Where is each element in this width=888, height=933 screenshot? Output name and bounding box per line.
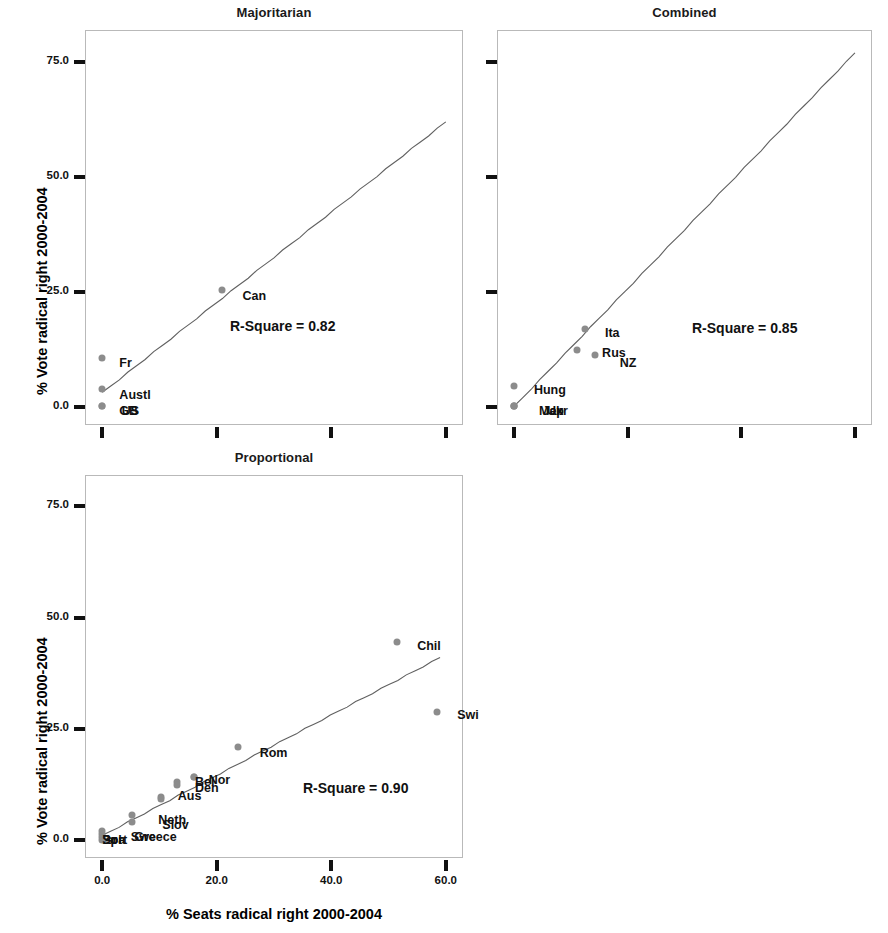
y-tick-proportional-1 — [74, 727, 85, 731]
data-point-combined-hung — [511, 382, 518, 389]
x-tick-proportional-3 — [444, 860, 448, 871]
data-point-label-combined-nz: NZ — [620, 356, 637, 370]
y-tick-label-proportional-2: 50.0 — [19, 610, 69, 622]
data-point-proportional-swi — [434, 708, 441, 715]
data-point-label-proportional-swi: Swi — [457, 708, 479, 722]
scatter-figure-panel-grid: Majoritarian0.025.050.075.0% Vote radica… — [0, 0, 888, 933]
y-tick-combined-0 — [486, 405, 497, 409]
data-point-label-majoritarian-fr: Fr — [119, 356, 132, 370]
x-tick-combined-2 — [739, 427, 743, 438]
r-square-annotation-combined: R-Square = 0.85 — [692, 320, 797, 336]
x-tick-proportional-2 — [329, 860, 333, 871]
data-point-majoritarian-can — [219, 286, 226, 293]
r-square-annotation-majoritarian: R-Square = 0.82 — [230, 318, 335, 334]
data-point-majoritarian-fr — [99, 355, 106, 362]
data-point-combined-ukr — [511, 402, 518, 409]
data-point-proportional-slov — [158, 796, 165, 803]
y-axis-label-majoritarian: % Vote radical right 2000-2004 — [34, 187, 50, 395]
plot-area-proportional — [85, 475, 463, 858]
x-tick-majoritarian-0 — [100, 427, 104, 438]
data-point-proportional-aus — [173, 781, 180, 788]
x-tick-label-proportional-2: 40.0 — [301, 874, 361, 886]
data-point-combined-rus — [573, 346, 580, 353]
data-point-proportional-chil — [394, 639, 401, 646]
x-tick-combined-1 — [626, 427, 630, 438]
y-tick-label-majoritarian-0: 0.0 — [19, 399, 69, 411]
data-point-label-combined-ita: Ita — [605, 326, 620, 340]
data-point-label-proportional-spa: Spa — [102, 833, 125, 847]
x-tick-combined-0 — [512, 427, 516, 438]
y-tick-proportional-2 — [74, 616, 85, 620]
y-tick-combined-1 — [486, 290, 497, 294]
y-tick-proportional-0 — [74, 838, 85, 842]
y-tick-combined-2 — [486, 175, 497, 179]
data-point-label-majoritarian-austl: Austl — [119, 388, 150, 402]
x-tick-majoritarian-1 — [215, 427, 219, 438]
y-tick-majoritarian-3 — [74, 60, 85, 64]
x-axis-label: % Seats radical right 2000-2004 — [85, 906, 463, 922]
data-point-combined-ita — [582, 325, 589, 332]
x-tick-majoritarian-2 — [329, 427, 333, 438]
y-tick-label-majoritarian-3: 75.0 — [19, 54, 69, 66]
data-point-label-combined-hung: Hung — [534, 383, 566, 397]
plot-area-majoritarian — [85, 30, 463, 425]
x-tick-proportional-1 — [215, 860, 219, 871]
y-tick-majoritarian-1 — [74, 290, 85, 294]
data-point-label-combined-ukr: Ukr — [547, 404, 568, 418]
y-axis-label-proportional: % Vote radical right 2000-2004 — [34, 637, 50, 845]
data-point-majoritarian-us — [99, 402, 106, 409]
data-point-label-proportional-chil: Chil — [417, 639, 441, 653]
data-point-label-majoritarian-can: Can — [243, 289, 267, 303]
x-tick-combined-3 — [853, 427, 857, 438]
data-point-label-proportional-rom: Rom — [260, 746, 288, 760]
data-point-label-proportional-greece: Greece — [134, 830, 176, 844]
x-tick-majoritarian-3 — [444, 427, 448, 438]
data-point-label-proportional-aus: Aus — [178, 789, 202, 803]
data-point-proportional-greece — [128, 818, 135, 825]
data-point-proportional-rom — [235, 743, 242, 750]
plot-area-combined — [497, 30, 872, 425]
x-tick-label-proportional-3: 60.0 — [416, 874, 476, 886]
y-tick-majoritarian-2 — [74, 175, 85, 179]
x-tick-label-proportional-1: 20.0 — [187, 874, 247, 886]
y-tick-label-proportional-3: 75.0 — [19, 498, 69, 510]
y-tick-proportional-3 — [74, 504, 85, 508]
panel-title-majoritarian: Majoritarian — [85, 5, 463, 20]
y-tick-majoritarian-0 — [74, 405, 85, 409]
y-tick-label-majoritarian-2: 50.0 — [19, 169, 69, 181]
x-tick-proportional-0 — [100, 860, 104, 871]
x-tick-label-proportional-0: 0.0 — [72, 874, 132, 886]
y-tick-combined-3 — [486, 60, 497, 64]
panel-title-proportional: Proportional — [85, 450, 463, 465]
data-point-label-majoritarian-us: US — [122, 404, 139, 418]
data-point-majoritarian-austl — [99, 386, 106, 393]
panel-title-combined: Combined — [497, 5, 872, 20]
r-square-annotation-proportional: R-Square = 0.90 — [303, 780, 408, 796]
data-point-combined-nz — [591, 352, 598, 359]
